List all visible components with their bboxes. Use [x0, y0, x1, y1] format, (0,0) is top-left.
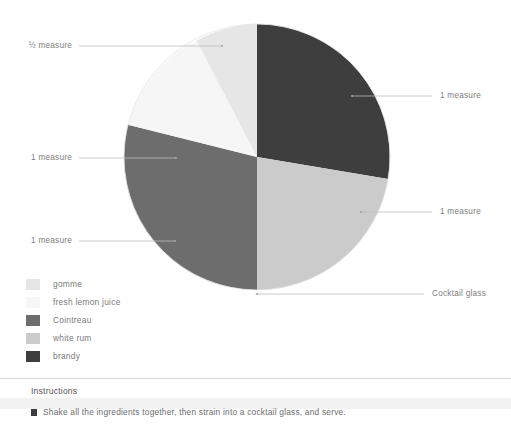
- pie-slices: [124, 24, 390, 290]
- leader-dot-white-rum: [360, 211, 362, 213]
- instruction-step: Shake all the ingredients together, then…: [31, 408, 346, 417]
- callout-label-white-rum: 1 measure: [440, 208, 481, 216]
- legend-label-cointreau: Cointreau: [53, 316, 92, 324]
- legend-item-cointreau[interactable]: Cointreau: [26, 311, 196, 329]
- instructions-heading: Instructions: [31, 386, 77, 396]
- callout-label-brandy: 1 measure: [440, 92, 481, 100]
- leader-dot-glass: [256, 293, 258, 295]
- instructions-divider: [0, 378, 511, 379]
- chart-legend: gomme fresh lemon juice Cointreau white …: [26, 275, 196, 365]
- legend-label-white-rum: white rum: [53, 334, 92, 342]
- callout-label-glass: Cocktail glass: [432, 290, 486, 298]
- legend-label-brandy: brandy: [53, 352, 80, 360]
- legend-label-fresh-lemon-juice: fresh lemon juice: [53, 298, 121, 306]
- legend-swatch-white-rum: [26, 333, 40, 344]
- callout-label-lemon: 1 measure: [10, 154, 72, 162]
- legend-swatch-brandy: [26, 351, 40, 362]
- legend-label-gomme: gomme: [53, 280, 82, 288]
- leader-dot-lemon: [175, 157, 177, 159]
- callout-label-cointreau: 1 measure: [10, 237, 72, 245]
- legend-item-gomme[interactable]: gomme: [26, 275, 196, 293]
- legend-swatch-gomme: [26, 279, 40, 290]
- leader-dot-gomme: [221, 45, 223, 47]
- step-number-icon: [31, 409, 37, 416]
- pie-slice-brandy[interactable]: [257, 24, 390, 179]
- callout-label-gomme: ½ measure: [10, 42, 72, 50]
- legend-swatch-fresh-lemon-juice: [26, 297, 40, 308]
- legend-swatch-cointreau: [26, 315, 40, 326]
- legend-item-brandy[interactable]: brandy: [26, 347, 196, 365]
- leader-dot-brandy: [351, 95, 353, 97]
- pie-slice-white-rum[interactable]: [257, 157, 388, 290]
- legend-item-white-rum[interactable]: white rum: [26, 329, 196, 347]
- leader-dot-cointreau: [174, 240, 176, 242]
- legend-item-fresh-lemon-juice[interactable]: fresh lemon juice: [26, 293, 196, 311]
- instruction-step-text: Shake all the ingredients together, then…: [43, 408, 346, 417]
